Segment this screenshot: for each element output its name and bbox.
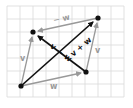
diagram-canvas: v w v − w v + w v − w — [0, 0, 133, 108]
point-v-tip — [30, 29, 35, 34]
label-w-bottom: w — [50, 82, 58, 91]
label-neg-w-top: − w — [52, 12, 71, 24]
label-v-left: v — [20, 54, 26, 63]
point-origin — [18, 83, 23, 88]
point-w-tip — [83, 69, 88, 74]
point-sum-tip — [95, 15, 100, 20]
vector-diagram: v w v − w v + w v − w — [0, 0, 133, 108]
label-v-right: v — [95, 46, 101, 55]
